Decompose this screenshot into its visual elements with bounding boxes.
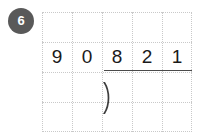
- long-division-expression: 9 0 8 2 1: [42, 42, 192, 72]
- grid-line-horizontal: [42, 72, 192, 73]
- grid-line-horizontal: [42, 131, 192, 132]
- dividend-digit-hundreds: 8: [102, 42, 132, 72]
- divisor-digit-ones: 0: [72, 42, 102, 72]
- divisor-digit-tens: 9: [42, 42, 72, 72]
- grid-line-horizontal: [42, 12, 192, 13]
- division-bracket-icon: [102, 82, 112, 114]
- problem-number-badge: 6: [8, 8, 34, 34]
- dividend-digit-ones: 1: [162, 42, 192, 72]
- dotted-grid: [42, 12, 192, 132]
- dividend-digit-tens: 2: [132, 42, 162, 72]
- worksheet-problem-page: 6 9 0 8 2 1: [0, 0, 202, 139]
- grid-line-horizontal: [42, 102, 192, 103]
